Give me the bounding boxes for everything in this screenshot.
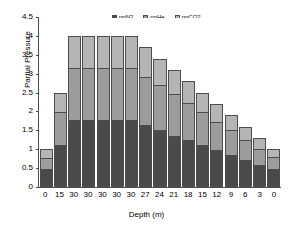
bar-column[interactable] [125, 18, 138, 187]
bar-segment-ppn2[interactable] [182, 140, 195, 187]
y-tick-label: 0.5 [22, 163, 33, 172]
bar-segment-ppco2[interactable] [168, 70, 181, 95]
y-axis-title: Partial Pressure [23, 5, 32, 115]
y-tick-label: 3.5 [22, 50, 33, 59]
x-axis-ticks: 01530303030302724211815129630 [38, 190, 281, 204]
bar-segment-ppn2[interactable] [225, 155, 238, 187]
bar-segment-pphe[interactable] [182, 103, 195, 140]
bar-segment-ppco2[interactable] [239, 127, 252, 140]
bar-column[interactable] [210, 18, 223, 187]
y-tick-label: 2 [29, 106, 33, 115]
y-tick-label: 1.5 [22, 125, 33, 134]
bar-segment-ppn2[interactable] [253, 165, 266, 187]
y-tick-label: 0 [29, 182, 33, 191]
bar-segment-ppn2[interactable] [68, 120, 81, 187]
x-tick-label: 9 [224, 190, 238, 204]
bar-segment-ppco2[interactable] [253, 138, 266, 149]
bar-column[interactable] [139, 18, 152, 187]
bar-column[interactable] [82, 18, 95, 187]
bar-segment-ppn2[interactable] [239, 160, 252, 187]
bar-segment-pphe[interactable] [40, 158, 53, 170]
bar-column[interactable] [153, 18, 166, 187]
x-tick-label: 30 [95, 190, 109, 204]
x-tick-label: 30 [81, 190, 95, 204]
x-axis-title: Depth (m) [0, 210, 293, 219]
x-tick-label: 12 [210, 190, 224, 204]
x-tick-label: 15 [195, 190, 209, 204]
bar-segment-pphe[interactable] [68, 68, 81, 120]
bar-segment-pphe[interactable] [168, 94, 181, 135]
bar-column[interactable] [68, 18, 81, 187]
bar-segment-pphe[interactable] [196, 112, 209, 145]
bar-column[interactable] [182, 18, 195, 187]
bar-segment-ppco2[interactable] [68, 36, 81, 68]
bar-column[interactable] [40, 18, 53, 187]
bar-segment-ppco2[interactable] [210, 104, 223, 122]
bar-column[interactable] [239, 18, 252, 187]
bar-segment-ppn2[interactable] [40, 169, 53, 187]
bar-segment-ppco2[interactable] [182, 81, 195, 103]
x-tick-label: 0 [38, 190, 52, 204]
bar-segment-pphe[interactable] [82, 68, 95, 120]
bar-segment-ppco2[interactable] [54, 93, 67, 112]
bar-segment-ppco2[interactable] [139, 47, 152, 76]
x-tick-label: 27 [138, 190, 152, 204]
bar-segment-pphe[interactable] [97, 68, 110, 120]
bar-segment-pphe[interactable] [125, 68, 138, 120]
bar-segment-ppco2[interactable] [40, 149, 53, 157]
x-tick-label: 24 [152, 190, 166, 204]
bar-column[interactable] [111, 18, 124, 187]
bar-column[interactable] [196, 18, 209, 187]
bar-column[interactable] [97, 18, 110, 187]
bar-column[interactable] [253, 18, 266, 187]
bar-segment-ppn2[interactable] [139, 125, 152, 187]
bar-segment-ppco2[interactable] [111, 36, 124, 68]
bar-segment-ppn2[interactable] [125, 120, 138, 187]
bar-segment-ppn2[interactable] [97, 120, 110, 187]
bar-segment-ppco2[interactable] [153, 59, 166, 86]
bar-segment-pphe[interactable] [139, 77, 152, 125]
bar-segment-ppn2[interactable] [196, 145, 209, 187]
bar-segment-ppn2[interactable] [267, 169, 280, 187]
x-tick-label: 30 [124, 190, 138, 204]
bar-segment-pphe[interactable] [239, 140, 252, 160]
bar-series-group [39, 18, 281, 187]
y-tick-label: 4 [29, 31, 33, 40]
plot-area: 00.511.522.533.544.5 [38, 18, 281, 188]
y-tick-label: 2.5 [22, 88, 33, 97]
x-tick-label: 6 [238, 190, 252, 204]
bar-column[interactable] [267, 18, 280, 187]
bar-segment-ppn2[interactable] [111, 120, 124, 187]
bar-segment-ppco2[interactable] [125, 36, 138, 68]
bar-segment-ppco2[interactable] [82, 36, 95, 68]
bar-segment-ppco2[interactable] [196, 93, 209, 112]
chart-container: ppN2ppHeppCO2 Partial Pressure 00.511.52… [0, 0, 293, 231]
bar-segment-ppn2[interactable] [168, 136, 181, 187]
bar-column[interactable] [168, 18, 181, 187]
x-tick-label: 30 [67, 190, 81, 204]
bar-segment-pphe[interactable] [253, 149, 266, 165]
x-tick-label: 30 [109, 190, 123, 204]
bar-segment-ppn2[interactable] [153, 130, 166, 187]
y-tick-label: 3 [29, 69, 33, 78]
bar-segment-pphe[interactable] [210, 122, 223, 150]
x-tick-label: 21 [167, 190, 181, 204]
bar-column[interactable] [225, 18, 238, 187]
bar-segment-ppn2[interactable] [54, 145, 67, 187]
bar-column[interactable] [54, 18, 67, 187]
bar-segment-ppco2[interactable] [97, 36, 110, 68]
x-tick-label: 0 [267, 190, 281, 204]
x-tick-label: 3 [252, 190, 266, 204]
y-tick-label: 1 [29, 144, 33, 153]
bar-segment-pphe[interactable] [54, 112, 67, 145]
bar-segment-ppco2[interactable] [225, 115, 238, 130]
bar-segment-ppn2[interactable] [82, 120, 95, 187]
x-tick-label: 15 [52, 190, 66, 204]
bar-segment-ppco2[interactable] [267, 149, 280, 157]
bar-segment-pphe[interactable] [267, 157, 280, 169]
bar-segment-pphe[interactable] [225, 130, 238, 154]
bar-segment-ppn2[interactable] [210, 150, 223, 187]
bar-segment-pphe[interactable] [153, 85, 166, 130]
bar-segment-pphe[interactable] [111, 68, 124, 120]
y-tick-label: 4.5 [22, 12, 33, 21]
